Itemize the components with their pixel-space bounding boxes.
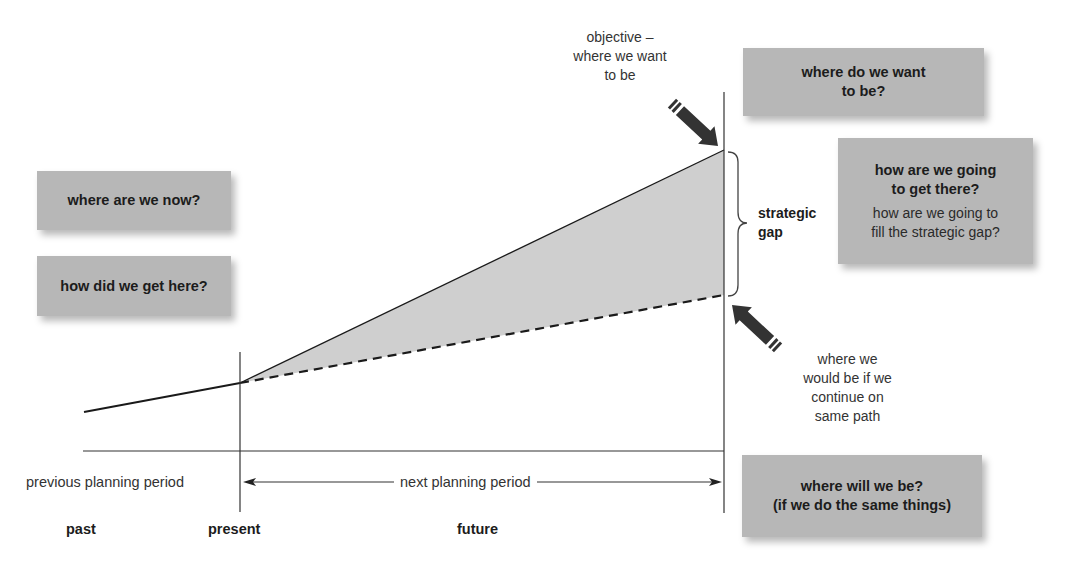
box-text-line1: where do we want (801, 63, 925, 82)
box-text-line1: where will we be? (801, 477, 923, 496)
next-planning-period-label: next planning period (394, 473, 537, 491)
annotation-line: where we want (555, 47, 685, 66)
annotation-line: continue on (790, 388, 905, 407)
strategic-gap-brace-icon (728, 152, 747, 296)
box-text-line2: to be? (842, 82, 886, 101)
annotation-line: would be if we (790, 369, 905, 388)
annotation-line: objective – (555, 28, 685, 47)
box-text: how did we get here? (60, 277, 207, 296)
annotation-line: same path (790, 407, 905, 426)
annotation-line: to be (555, 66, 685, 85)
box-subtext-line1: how are we going to (873, 204, 998, 223)
previous-planning-period-label: previous planning period (26, 473, 184, 491)
same-path-arrow-icon (724, 296, 786, 357)
label-line: gap (758, 223, 816, 242)
period-present-label: present (208, 521, 260, 537)
same-path-annotation: where we would be if we continue on same… (790, 350, 905, 426)
label-line: strategic (758, 204, 816, 223)
how-are-we-going-to-get-there-box: how are we going to get there? how are w… (838, 138, 1033, 264)
strategic-gap-label: strategic gap (758, 204, 816, 242)
box-subtext-line2: fill the strategic gap? (871, 223, 999, 242)
box-text-line2: to get there? (892, 180, 980, 199)
objective-annotation: objective – where we want to be (555, 28, 685, 85)
annotation-line: where we (790, 350, 905, 369)
where-do-we-want-to-be-box: where do we want to be? (743, 48, 984, 116)
objective-arrow-icon (664, 94, 726, 155)
where-will-we-be-box: where will we be? (if we do the same thi… (742, 455, 982, 537)
where-are-we-now-box: where are we now? (37, 171, 231, 230)
box-text-line2: (if we do the same things) (773, 496, 951, 515)
how-did-we-get-here-box: how did we get here? (37, 256, 231, 316)
box-text: where are we now? (68, 191, 201, 210)
period-future-label: future (457, 521, 498, 537)
past-trend-line (84, 383, 240, 412)
period-past-label: past (66, 521, 96, 537)
box-text-line1: how are we going (875, 161, 997, 180)
